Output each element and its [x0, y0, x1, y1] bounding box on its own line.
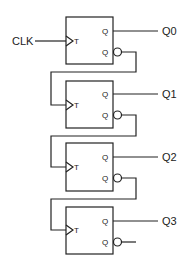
ff0-q-label: Q [102, 27, 108, 36]
output-q3-label: Q3 [162, 215, 177, 227]
ff3-qbar-label: Q [102, 238, 108, 247]
ff1-qbar-label: Q [102, 111, 108, 120]
flip-flop-3 [66, 207, 158, 254]
ff2-t-label: T [74, 163, 79, 172]
ff1-q-label: Q [102, 90, 108, 99]
output-q0-label: Q0 [162, 25, 177, 37]
output-q2-label: Q2 [162, 151, 177, 163]
ff3-t-label: T [74, 226, 79, 235]
ff0-qbar-label: Q [102, 48, 108, 57]
ff3-q-label: Q [102, 217, 108, 226]
ff2-qbar-label: Q [102, 174, 108, 183]
clk-label: CLK [12, 35, 34, 47]
ff0-t-label: T [74, 37, 79, 46]
ripple-counter-diagram: CLK T Q Q Q0 T Q Q Q1 T Q Q Q2 T Q Q Q3 [0, 0, 186, 274]
ff1-t-label: T [74, 101, 79, 110]
ff2-q-label: Q [102, 153, 108, 162]
output-q1-label: Q1 [162, 88, 177, 100]
